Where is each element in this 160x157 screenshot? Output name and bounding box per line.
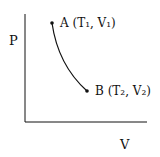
- point-b-marker: [85, 89, 89, 93]
- point-a-marker: [50, 21, 54, 25]
- x-axis-label: V: [120, 138, 129, 151]
- process-curve: [52, 23, 87, 91]
- point-b-label: B (T₂, V₂): [95, 85, 151, 97]
- point-a-label: A (T₁, V₁): [60, 17, 116, 29]
- pv-diagram: P V A (T₁, V₁) B (T₂, V₂): [0, 0, 160, 157]
- y-axis-label: P: [9, 34, 18, 47]
